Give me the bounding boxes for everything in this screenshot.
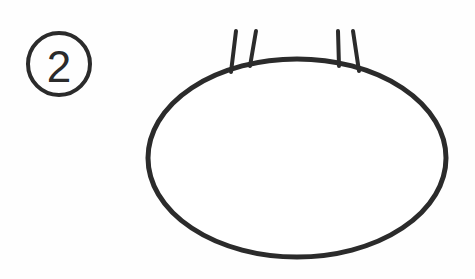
whisker-line-3: [338, 31, 339, 66]
drawing-canvas: 2: [0, 0, 475, 279]
step-marker-group: 2: [28, 33, 90, 95]
step-illustration: 2: [0, 0, 475, 279]
step-number-label: 2: [47, 42, 71, 91]
body-ellipse-shape: [148, 59, 446, 257]
body-group: [148, 59, 446, 257]
